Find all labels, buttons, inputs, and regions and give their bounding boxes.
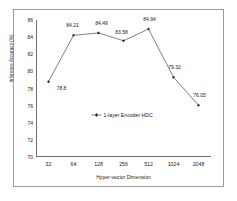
y-tick-label: 86 — [27, 17, 33, 23]
legend-label: 1-layer Encoder HDC — [104, 112, 153, 118]
data-point-label: 79.32 — [168, 64, 181, 70]
data-point-label: 84.94 — [143, 16, 156, 22]
data-point-label: 84.21 — [66, 22, 79, 28]
y-tick-label: 80 — [27, 68, 33, 74]
x-tick-label: 512 — [144, 161, 153, 167]
y-tick-label: 76 — [27, 103, 33, 109]
x-tick-label: 256 — [119, 161, 128, 167]
x-tick-label: 1024 — [168, 161, 180, 167]
x-tick-label: 64 — [71, 161, 77, 167]
x-tick-label: 128 — [94, 161, 103, 167]
chart-legend: 1-layer Encoder HDC — [91, 112, 153, 118]
data-point-label: 83.58 — [115, 29, 128, 35]
legend-marker-icon — [91, 112, 102, 118]
y-tick-label: 84 — [27, 34, 33, 40]
data-point-label: 78.8 — [57, 85, 67, 91]
y-tick-label: 70 — [27, 154, 33, 160]
data-point-marker — [72, 34, 75, 37]
y-tick-label: 82 — [27, 51, 33, 57]
x-tick-label: 2048 — [193, 161, 205, 167]
y-tick-label: 74 — [27, 120, 33, 126]
data-point-marker — [97, 31, 100, 34]
plot-area: 868482807876747270 326412825651210242048… — [36, 20, 211, 157]
data-point-label: 84.49 — [95, 20, 108, 26]
y-axis-title: Inference Accuracy (%) — [9, 13, 14, 105]
y-tick-label: 72 — [27, 137, 33, 143]
data-point-label: 76.05 — [193, 92, 206, 98]
y-tick-label: 78 — [27, 86, 33, 92]
x-axis-title: Hyper-vector Dimension — [36, 174, 211, 180]
data-point-marker — [147, 28, 150, 31]
data-point-marker — [47, 80, 50, 83]
x-tick-label: 32 — [46, 161, 52, 167]
chart-figure: Inference Accuracy (%) Hyper-vector Dime… — [0, 0, 237, 201]
data-point-marker — [122, 39, 125, 42]
